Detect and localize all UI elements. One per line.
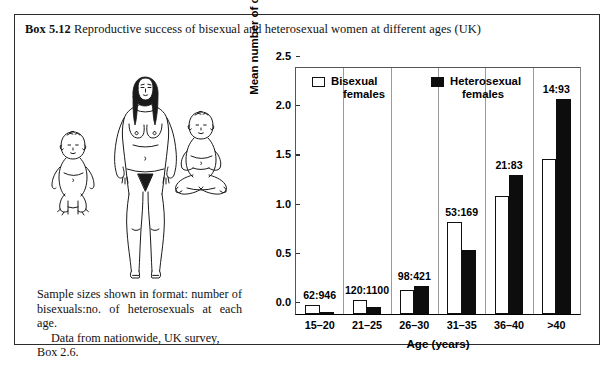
group-separator <box>533 68 534 314</box>
legend-label-bisexual: Bisexual females <box>331 75 385 102</box>
x-tick-label: >40 <box>547 319 565 331</box>
caption-paragraph-2: Data from nationwide, UK survey, Box 2.6… <box>37 331 242 360</box>
legend-label-heterosexual: Heterosexual females <box>450 75 521 102</box>
bar-chart: Mean number of children 0.00.51.01.52.02… <box>251 55 601 340</box>
x-axis-title: Age (years) <box>295 337 581 350</box>
bar-heterosexual <box>414 286 428 314</box>
box-title-text: Reproductive success of bisexual and het… <box>74 22 481 36</box>
bar-bisexual <box>400 290 414 314</box>
sample-size-annotation: 98:421 <box>398 270 431 282</box>
caption-paragraph-1: Sample sizes shown in format: number of … <box>37 287 242 331</box>
y-tick-label: 2.5 <box>276 50 296 62</box>
box-number: Box 5.12 <box>25 22 71 36</box>
y-tick-label: 0.5 <box>276 247 296 259</box>
sample-size-annotation: 120:1100 <box>345 284 389 296</box>
chart-legend: Bisexual females Heterosexual females <box>312 75 521 102</box>
bar-heterosexual <box>320 312 334 314</box>
figure-box-frame: Box 5.12 Reproductive success of bisexua… <box>14 14 600 345</box>
bar-heterosexual <box>462 250 476 314</box>
box-title: Box 5.12 Reproductive success of bisexua… <box>25 22 585 37</box>
legend-item-heterosexual: Heterosexual females <box>431 75 521 102</box>
bar-bisexual <box>542 159 556 314</box>
sample-size-annotation: 14:93 <box>543 83 570 95</box>
legend-swatch-heterosexual-icon <box>431 77 444 87</box>
legend-swatch-bisexual-icon <box>312 77 325 87</box>
group-separator <box>343 68 344 314</box>
y-tick-label: 1.0 <box>276 198 296 210</box>
x-tick-label: 21–25 <box>352 319 382 331</box>
bar-heterosexual <box>556 99 570 314</box>
sample-size-annotation: 53:169 <box>445 206 478 218</box>
bar-heterosexual <box>509 175 523 314</box>
bar-bisexual <box>495 196 509 314</box>
group-separator <box>438 68 439 314</box>
bar-bisexual <box>305 305 319 314</box>
bar-heterosexual <box>367 307 381 314</box>
x-tick-label: 31–35 <box>447 319 477 331</box>
x-tick-label: 26–30 <box>399 319 429 331</box>
y-tick-label: 1.5 <box>276 148 296 160</box>
x-tick-label: 15–20 <box>305 319 335 331</box>
group-separator <box>485 68 486 314</box>
y-tick-label: 0.0 <box>276 296 296 308</box>
group-separator <box>391 68 392 314</box>
bar-bisexual <box>353 300 367 314</box>
sample-size-annotation: 62:946 <box>303 289 336 301</box>
woman-with-two-babies-illustration <box>37 61 249 283</box>
bar-bisexual <box>447 222 461 314</box>
caption-block: Sample sizes shown in format: number of … <box>37 287 242 360</box>
y-tick-label: 2.0 <box>276 99 296 111</box>
x-tick-label: 36–40 <box>494 319 524 331</box>
plot-area: 0.00.51.01.52.02.5 62:946120:110098:4215… <box>295 67 581 315</box>
y-axis-title: Mean number of children <box>247 0 260 117</box>
sample-size-annotation: 21:83 <box>495 159 522 171</box>
legend-item-bisexual: Bisexual females <box>312 75 385 102</box>
